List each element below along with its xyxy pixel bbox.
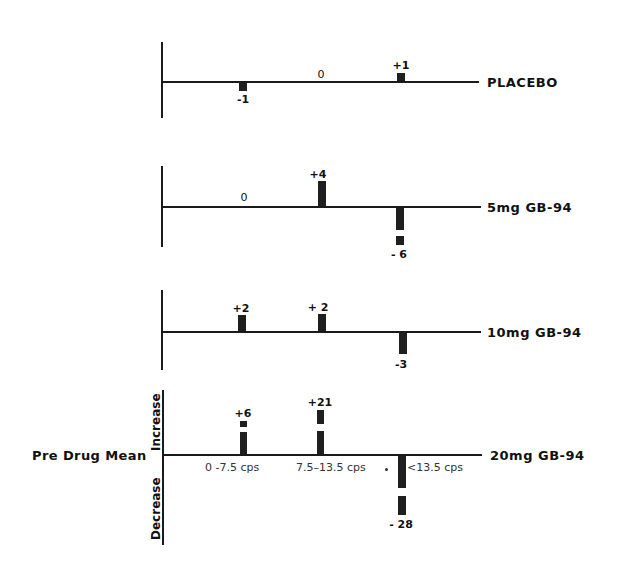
- stray-dot: [385, 468, 388, 471]
- value-label-5mg-cat1: 0: [241, 192, 248, 203]
- value-label-20mg-cat1: +6: [235, 408, 252, 419]
- y-label-decrease: Decrease: [150, 477, 162, 540]
- baseline-placebo: [161, 81, 479, 83]
- bar-5mg-cat3-upper: [396, 208, 404, 230]
- bar-20mg-cat1-upper: [240, 421, 247, 427]
- category-label-7.5-13.5cps: 7.5–13.5 cps: [296, 462, 366, 473]
- value-label-5mg-cat3: - 6: [391, 249, 407, 260]
- value-label-5mg-cat2: +4: [310, 169, 327, 180]
- value-label-10mg-cat1: +2: [233, 303, 250, 314]
- value-label-20mg-cat3: - 28: [389, 519, 413, 530]
- bar-20mg-cat3-upper: [398, 456, 406, 488]
- bar-placebo-cat1: [239, 83, 247, 91]
- y-axis-placebo: [161, 42, 163, 118]
- bar-20mg-cat3-lower: [398, 496, 406, 515]
- category-label-gt-13.5cps: <13.5 cps: [407, 462, 463, 473]
- y-label-increase: Increase: [150, 393, 162, 451]
- bar-10mg-cat2: [318, 314, 326, 331]
- y-axis-10mg: [161, 290, 163, 370]
- bar-5mg-cat2: [318, 181, 326, 206]
- bar-20mg-cat2-upper: [317, 410, 324, 424]
- value-label-20mg-cat2: +21: [308, 397, 333, 408]
- value-label-placebo-cat1: -1: [237, 94, 249, 105]
- baseline-label-pre-drug-mean: Pre Drug Mean: [32, 449, 147, 462]
- series-label-5mg: 5mg GB-94: [487, 201, 572, 214]
- bar-10mg-cat1: [238, 315, 246, 331]
- series-label-placebo: PLACEBO: [487, 76, 558, 89]
- bar-20mg-cat2-lower: [317, 431, 324, 454]
- bar-5mg-cat3-lower: [396, 236, 404, 245]
- series-label-10mg: 10mg GB-94: [487, 326, 582, 339]
- baseline-20mg: [162, 454, 482, 456]
- baseline-10mg: [161, 331, 481, 333]
- value-label-10mg-cat3: -3: [395, 359, 407, 370]
- value-label-placebo-cat3: +1: [393, 60, 410, 71]
- category-label-0-7.5cps: 0 -7.5 cps: [205, 462, 259, 473]
- bar-placebo-cat3: [397, 73, 405, 81]
- baseline-5mg: [161, 206, 481, 208]
- value-label-10mg-cat2: + 2: [308, 302, 329, 313]
- value-label-placebo-cat2: 0: [318, 69, 325, 80]
- bar-10mg-cat3: [399, 333, 407, 354]
- series-label-20mg: 20mg GB-94: [490, 449, 585, 462]
- bar-20mg-cat1-lower: [240, 432, 247, 454]
